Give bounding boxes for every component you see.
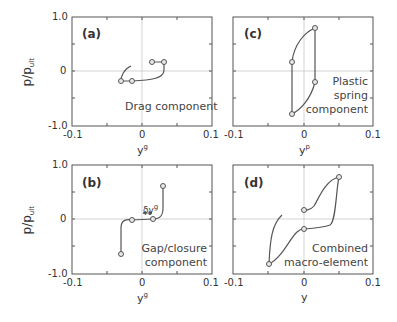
- y-axis-label-top: p/pult: [20, 58, 36, 86]
- ytick-b-mid: 0: [60, 213, 66, 224]
- panel-tag-d: (d): [244, 176, 264, 190]
- x-axis-label-c: yp: [299, 143, 310, 157]
- x-axis-label-b: yg: [137, 291, 148, 305]
- xtick-a-left: -0.1: [63, 129, 83, 140]
- xtick-b-mid: 0: [139, 277, 145, 288]
- annotation-b: Gap/closurecomponent: [141, 242, 207, 270]
- delta-label: δyg: [143, 200, 158, 217]
- xtick-d-mid: 0: [301, 277, 307, 288]
- x-axis-label-d: y: [301, 291, 308, 304]
- xtick-c-right: 0.1: [365, 129, 381, 140]
- figure: p/pult p/pult 1.0 0 -1.0 1.0 0 -1.0 -0.1…: [0, 0, 397, 322]
- panel-tag-b: (b): [82, 176, 102, 190]
- panel-tag-c: (c): [244, 27, 262, 41]
- xtick-b-left: -0.1: [63, 277, 83, 288]
- ytick-a-top: 1.0: [52, 11, 68, 22]
- annotation-a: Drag component: [125, 100, 217, 114]
- ytick-a-mid: 0: [60, 65, 66, 76]
- xtick-d-right: 0.1: [365, 277, 381, 288]
- curve-a: [121, 62, 164, 81]
- y-axis-label-bottom: p/pult: [20, 206, 36, 234]
- annotation-c: Plasticspringcomponent: [306, 75, 368, 117]
- ytick-b-top: 1.0: [52, 159, 68, 170]
- annotation-d: Combinedmacro-element: [284, 242, 368, 270]
- xtick-a-mid: 0: [139, 129, 145, 140]
- xtick-b-right: 0.1: [203, 277, 219, 288]
- xtick-c-mid: 0: [301, 129, 307, 140]
- xtick-a-right: 0.1: [203, 129, 219, 140]
- panel-tag-a: (a): [82, 27, 101, 41]
- xtick-d-left: -0.1: [224, 277, 244, 288]
- x-axis-label-a: yg: [137, 143, 148, 157]
- xtick-c-left: -0.1: [224, 129, 244, 140]
